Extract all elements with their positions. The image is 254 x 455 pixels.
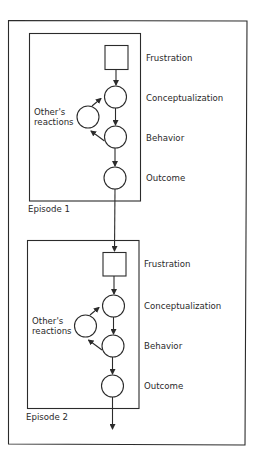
episode-2-outcome-node — [102, 375, 124, 397]
episode-1-label: Episode 1 — [28, 204, 70, 214]
outer-frame — [9, 21, 248, 446]
episode-1-frustration-node — [105, 46, 128, 70]
episode-2-conceptualization-node — [103, 295, 125, 317]
episode-2-outcome-label: Outcome — [144, 381, 183, 391]
others-reactions-line1: Other's — [32, 316, 72, 326]
others-reactions-line1: Other's — [34, 107, 74, 117]
others-reactions-line2: reactions — [34, 117, 74, 127]
episode-1-behavior-node — [105, 126, 127, 148]
episode-1-conceptualization-label: Conceptualization — [146, 93, 223, 103]
episode-1-outcome-label: Outcome — [146, 173, 185, 183]
episode-2-behavior-label: Behavior — [144, 341, 182, 351]
others-reactions-line2: reactions — [32, 326, 72, 336]
episode-flow-diagram — [0, 0, 254, 455]
episode-1-frustration-label: Frustration — [146, 53, 192, 63]
episode-1-others-reactions-label: Other's reactions — [34, 107, 74, 127]
episode-2-behavior-node — [102, 335, 124, 357]
episode-1-others-reactions-node — [77, 106, 99, 128]
episode-1-behavior-label: Behavior — [146, 133, 184, 143]
episode-2-label: Episode 2 — [26, 412, 68, 422]
episode-2-others-reactions-node — [75, 315, 97, 337]
episode-2-frustration-node — [103, 253, 126, 277]
episode-2-others-reactions-label: Other's reactions — [32, 316, 72, 336]
episode-2-frustration-label: Frustration — [144, 259, 190, 269]
episode-1-conceptualization-node — [105, 86, 127, 108]
episode-2-conceptualization-label: Conceptualization — [144, 301, 221, 311]
episode-1-outcome-node — [104, 167, 126, 189]
